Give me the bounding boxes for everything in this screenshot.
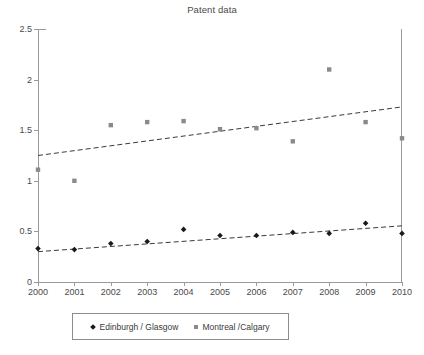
legend-entry-montreal-calgary: Montreal /Calgary xyxy=(194,322,269,332)
trendline-diamond xyxy=(38,226,402,252)
series-layer xyxy=(38,29,402,282)
data-point-diamond xyxy=(399,231,405,237)
data-point-diamond xyxy=(144,239,150,245)
data-point-square xyxy=(109,123,113,127)
x-tick-mark xyxy=(147,282,148,286)
x-tick-mark xyxy=(111,282,112,286)
x-tick-mark xyxy=(366,282,367,286)
x-tick-mark xyxy=(256,282,257,286)
data-point-diamond xyxy=(181,227,187,233)
data-point-diamond xyxy=(363,221,369,227)
square-marker-icon xyxy=(194,325,198,329)
data-point-diamond xyxy=(217,233,223,239)
data-point-diamond xyxy=(108,241,114,247)
x-tick-mark xyxy=(402,282,403,286)
x-tick-label: 2004 xyxy=(174,287,194,297)
data-point-diamond xyxy=(254,233,260,239)
data-point-square xyxy=(218,127,222,131)
data-point-diamond xyxy=(35,246,41,252)
data-point-square xyxy=(327,67,331,71)
patent-data-chart: Patent data 00.511.522.5 200020012002200… xyxy=(0,0,424,355)
x-tick-label: 2001 xyxy=(64,287,84,297)
y-tick-label: 0 xyxy=(27,277,32,287)
x-tick-label: 2008 xyxy=(319,287,339,297)
data-point-square xyxy=(145,120,149,124)
data-point-square xyxy=(291,139,295,143)
data-point-diamond xyxy=(290,230,296,236)
x-tick-label: 2009 xyxy=(356,287,376,297)
legend-entry-edinburgh-glasgow: Edinburgh / Glasgow xyxy=(91,322,178,332)
data-point-square xyxy=(363,120,367,124)
y-tick-label: 2 xyxy=(27,75,32,85)
x-tick-mark xyxy=(329,282,330,286)
y-tick-label: 2.5 xyxy=(19,24,32,34)
x-tick-label: 2007 xyxy=(283,287,303,297)
data-point-diamond xyxy=(72,247,78,253)
x-tick-mark xyxy=(293,282,294,286)
data-point-square xyxy=(36,167,40,171)
x-tick-mark xyxy=(38,282,39,286)
x-tick-label: 2002 xyxy=(101,287,121,297)
data-point-square xyxy=(400,136,404,140)
y-tick-label: 1 xyxy=(27,176,32,186)
y-tick-label: 0.5 xyxy=(19,226,32,236)
x-tick-label: 2003 xyxy=(137,287,157,297)
data-point-square xyxy=(254,126,258,130)
legend-label-montreal-calgary: Montreal /Calgary xyxy=(202,322,269,332)
x-tick-label: 2010 xyxy=(392,287,412,297)
plot-area: 00.511.522.5 200020012002200320042005200… xyxy=(38,29,402,282)
x-tick-mark xyxy=(184,282,185,286)
x-tick-label: 2000 xyxy=(28,287,48,297)
x-tick-mark xyxy=(74,282,75,286)
x-tick-mark xyxy=(220,282,221,286)
diamond-marker-icon xyxy=(91,324,97,330)
x-tick-label: 2006 xyxy=(246,287,266,297)
chart-title: Patent data xyxy=(0,4,424,15)
y-tick-label: 1.5 xyxy=(19,125,32,135)
chart-legend: Edinburgh / Glasgow Montreal /Calgary xyxy=(72,313,289,340)
data-point-square xyxy=(72,179,76,183)
legend-label-edinburgh-glasgow: Edinburgh / Glasgow xyxy=(99,322,178,332)
data-point-square xyxy=(181,119,185,123)
x-tick-label: 2005 xyxy=(210,287,230,297)
